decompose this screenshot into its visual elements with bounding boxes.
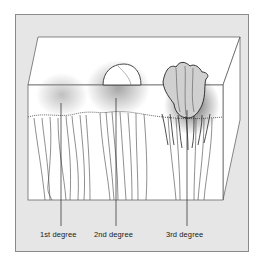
label-third-degree: 3rd degree (166, 230, 203, 239)
label-first-degree: 1st degree (40, 230, 76, 239)
label-second-degree: 2nd degree (94, 230, 133, 239)
first-degree-redness (36, 73, 88, 117)
